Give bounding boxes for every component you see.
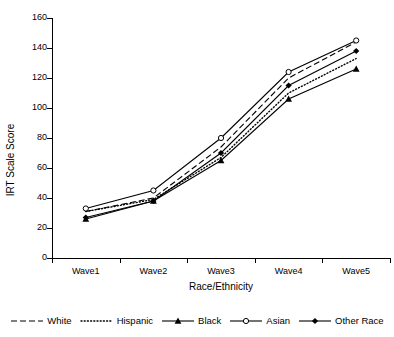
y-axis-tick-group: 160140120100806040200 — [0, 0, 47, 337]
y-axis-tick — [47, 168, 52, 169]
series-black — [82, 66, 359, 222]
y-axis-tick — [47, 228, 52, 229]
legend-divider — [0, 305, 394, 306]
legend-item-other-race[interactable]: Other Race — [294, 316, 388, 326]
y-axis-tick — [47, 48, 52, 49]
y-axis-tick-label: 100 — [1, 103, 47, 112]
legend-label: Other Race — [335, 316, 384, 326]
legend-label: White — [47, 316, 71, 326]
series-other-race — [83, 48, 360, 221]
x-axis-tick — [322, 258, 323, 263]
y-axis-tick-label: 0 — [1, 253, 47, 262]
x-axis-tick-label: Wave4 — [255, 266, 323, 276]
legend-item-hispanic[interactable]: Hispanic — [76, 316, 157, 326]
y-axis-tick — [47, 78, 52, 79]
legend-swatch-open-circle — [229, 316, 263, 326]
y-axis-line — [52, 18, 53, 259]
y-axis-tick-label: 20 — [1, 223, 47, 232]
series-line — [86, 41, 356, 209]
y-axis-tick-label: 60 — [1, 163, 47, 172]
data-point-marker — [354, 38, 359, 43]
series-line — [86, 69, 356, 219]
y-axis-tick — [47, 198, 52, 199]
series-asian — [83, 38, 359, 211]
data-point-marker — [285, 96, 292, 102]
y-axis-tick-label: 40 — [1, 193, 47, 202]
x-axis-tick-label: Wave5 — [322, 266, 390, 276]
data-point-marker — [150, 198, 157, 204]
series-line — [86, 51, 356, 218]
data-point-marker — [218, 157, 225, 163]
legend-swatch-filled-diamond — [298, 316, 332, 326]
data-point-marker — [151, 188, 156, 193]
y-axis-tick-label: 120 — [1, 73, 47, 82]
data-point-marker — [82, 216, 89, 222]
legend-item-asian[interactable]: Asian — [225, 316, 294, 326]
series-line — [86, 42, 356, 212]
x-axis-tick — [187, 258, 188, 263]
legend-item-white[interactable]: White — [6, 316, 75, 326]
x-axis-line — [52, 258, 390, 259]
series-hispanic — [86, 59, 356, 212]
y-axis-tick-label: 80 — [1, 133, 47, 142]
x-axis-tick-label: Wave3 — [187, 266, 255, 276]
chart-legend: WhiteHispanicBlackAsianOther Race — [0, 310, 394, 332]
legend-swatch-none — [80, 316, 114, 326]
series-white — [86, 42, 356, 212]
series-line — [86, 59, 356, 212]
legend-swatch-filled-triangle — [161, 316, 195, 326]
x-axis-tick — [255, 258, 256, 263]
legend-swatch-none — [10, 316, 44, 326]
y-axis-tick-label: 160 — [1, 13, 47, 22]
x-axis-title: Race/Ethnicity — [52, 281, 390, 292]
legend-label: Asian — [266, 316, 290, 326]
chart-container: IRT Scale Score 160140120100806040200 Wa… — [0, 0, 394, 337]
data-point-marker — [286, 82, 292, 88]
data-point-marker — [286, 69, 291, 74]
legend-label: Black — [198, 316, 221, 326]
x-axis-tick — [390, 258, 391, 263]
x-axis-tick — [52, 258, 53, 263]
data-point-marker — [150, 198, 156, 204]
y-axis-tick — [47, 258, 52, 259]
data-point-marker — [218, 135, 223, 140]
data-point-marker — [353, 48, 359, 54]
y-axis-tick-label: 140 — [1, 43, 47, 52]
legend-label: Hispanic — [117, 316, 153, 326]
x-axis-tick — [120, 258, 121, 263]
y-axis-tick — [47, 18, 52, 19]
data-point-marker — [83, 214, 89, 220]
data-point-marker — [353, 66, 360, 72]
x-axis-tick-label: Wave2 — [120, 266, 188, 276]
x-axis-tick-label: Wave1 — [52, 266, 120, 276]
y-axis-tick — [47, 108, 52, 109]
y-axis-tick — [47, 138, 52, 139]
data-point-marker — [218, 150, 224, 156]
data-point-marker — [83, 206, 88, 211]
legend-item-black[interactable]: Black — [157, 316, 225, 326]
